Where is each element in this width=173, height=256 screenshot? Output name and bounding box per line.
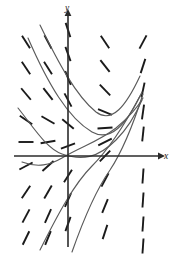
slope-dash <box>142 239 143 254</box>
curve-1 <box>40 25 140 116</box>
slope-dash <box>22 209 29 222</box>
slope-dash <box>103 225 108 239</box>
slope-dash <box>44 62 52 75</box>
x-axis-label: x <box>163 151 169 161</box>
curve-5 <box>40 96 140 250</box>
slope-dash <box>22 186 30 198</box>
slope-dash <box>98 127 113 128</box>
slope-dash <box>142 217 143 232</box>
slope-dash <box>142 193 143 208</box>
slope-dash <box>142 127 144 142</box>
slope-field-figure: x y <box>0 0 173 256</box>
slope-dash <box>102 199 108 213</box>
slope-dash <box>44 186 52 199</box>
slope-dash <box>42 116 55 124</box>
y-axis-label: y <box>64 3 70 13</box>
slope-dash <box>142 169 143 184</box>
slope-dash <box>101 173 108 186</box>
slope-dash <box>141 59 146 73</box>
curve-6 <box>72 94 143 252</box>
slope-field-canvas: x y <box>0 0 173 256</box>
slope-dash <box>45 209 51 223</box>
slope-dash <box>41 141 56 144</box>
slope-dash <box>43 88 52 100</box>
slope-dash <box>101 36 109 48</box>
curve-4 <box>22 98 143 165</box>
slope-dash <box>142 105 144 120</box>
slope-dash <box>22 36 30 49</box>
slope-dash <box>20 116 32 124</box>
slope-dash <box>100 60 109 72</box>
slope-dash <box>21 88 31 100</box>
solution-curves <box>18 25 143 252</box>
slope-dash <box>100 85 110 96</box>
slope-dash <box>139 35 146 48</box>
slope-dash <box>22 62 30 74</box>
slope-dash <box>23 231 30 244</box>
